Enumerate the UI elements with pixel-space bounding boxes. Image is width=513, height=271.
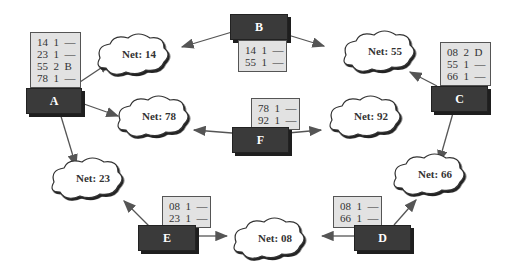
router-c: C	[431, 86, 488, 112]
table-row: 78 1 —	[258, 102, 293, 114]
net-14-label: Net: 14	[99, 48, 179, 60]
table-row: 78 1 —	[37, 72, 74, 84]
table-row: 55 1 —	[245, 56, 280, 68]
routing-table-d: 08 1 —66 1 —	[333, 196, 382, 228]
net-92-label: Net: 92	[331, 110, 411, 122]
net-78-label: Net: 78	[119, 110, 199, 122]
router-e: E	[138, 225, 196, 251]
table-row: 55 1 —	[447, 58, 484, 70]
net-23-label: Net: 23	[53, 172, 133, 184]
router-d: D	[354, 225, 411, 251]
table-row: 66 1 —	[340, 212, 375, 224]
net-55-label: Net: 55	[345, 45, 425, 57]
table-row: 66 1 —	[447, 70, 484, 82]
table-row: 14 1 —	[37, 36, 74, 48]
routing-table-f: 78 1 —92 1 —	[251, 98, 300, 130]
table-row: 14 1 —	[245, 44, 280, 56]
router-b: B	[230, 14, 288, 40]
router-f: F	[232, 127, 289, 153]
router-a: A	[26, 88, 82, 114]
table-row: 23 1 —	[169, 212, 204, 224]
table-row: 08 2 D	[447, 46, 484, 58]
table-row: 08 1 —	[340, 200, 375, 212]
routing-table-b: 14 1 —55 1 —	[238, 40, 287, 72]
routing-table-c: 08 2 D55 1 —66 1 —	[440, 42, 491, 86]
table-row: 08 1 —	[169, 200, 204, 212]
table-row: 92 1 —	[258, 114, 293, 126]
routing-table-e: 08 1 —23 1 —	[162, 196, 211, 228]
table-row: 23 1 —	[37, 48, 74, 60]
net-66-label: Net: 66	[395, 168, 475, 180]
routing-table-a: 14 1 —23 1 —55 2 B78 1 —	[30, 32, 81, 88]
net-08-label: Net: 08	[235, 232, 315, 244]
table-row: 55 2 B	[37, 60, 74, 72]
